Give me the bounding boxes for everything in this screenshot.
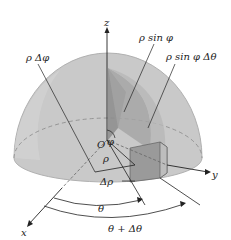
y-axis-label: y [211, 169, 218, 180]
y-axis-arrowhead [205, 169, 211, 175]
delta-rho-label: Δρ [99, 176, 113, 187]
origin-label: O [97, 139, 105, 150]
x-axis-label: x [21, 227, 27, 238]
z-axis-label: z [103, 17, 110, 28]
rho-sin-phi-label: ρ sin φ [138, 32, 173, 43]
rho-sin-phi-delta-theta-label: ρ sin φ Δθ [165, 51, 216, 62]
theta-delta-theta-arc [44, 204, 184, 218]
theta-plus-delta-theta-label: θ + Δθ [108, 223, 142, 234]
phi-label: φ [107, 136, 114, 147]
x-axis [29, 188, 62, 224]
rho-delta-phi-label: ρ Δφ [25, 52, 49, 63]
volume-element-face [160, 142, 167, 178]
theta-label: θ [98, 203, 104, 214]
rho-label: ρ [102, 153, 109, 164]
theta-delta-theta-arc-arrowhead [180, 201, 186, 207]
theta-delta-ray [160, 178, 200, 205]
spherical-coordinates-diagram: z y x O φ ρ Δρ ρ Δφ ρ sin φ ρ sin φ Δθ θ… [0, 0, 231, 240]
